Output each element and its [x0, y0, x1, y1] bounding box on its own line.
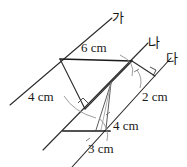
line-label-da: 다 [166, 52, 178, 65]
geometry-figure: 가 나 다 6 cm 4 cm 2 cm 4 cm 3 cm [0, 0, 187, 167]
dimension-label-6cm: 6 cm [81, 41, 107, 54]
dimension-label-3cm: 3 cm [88, 142, 114, 155]
line-label-na: 나 [148, 36, 160, 49]
line-da-stroke [72, 58, 171, 167]
arc-mark-bottom [99, 118, 108, 141]
segment-2cm-right [132, 61, 155, 76]
dimension-label-4cm-mid: 4 cm [113, 119, 139, 132]
line-label-ga: 가 [112, 11, 124, 24]
dimension-label-4cm-left: 4 cm [28, 90, 54, 103]
segment-6cm [60, 59, 132, 61]
line-na-stroke [43, 43, 148, 150]
dimension-label-2cm: 2 cm [142, 90, 168, 103]
arc-mark-right [137, 70, 141, 88]
segment-4cm-left [60, 59, 85, 109]
segment-diagonal-upper [85, 61, 132, 109]
